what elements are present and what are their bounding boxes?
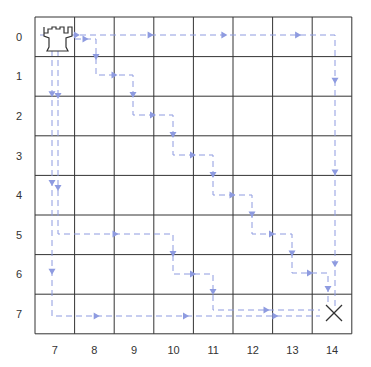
row-label: 7 bbox=[16, 308, 22, 320]
row-label: 4 bbox=[16, 189, 22, 201]
arrowhead-icon bbox=[289, 251, 296, 257]
arrowhead-icon bbox=[49, 180, 56, 186]
row-label: 1 bbox=[16, 70, 22, 82]
arrowhead-icon bbox=[55, 185, 62, 191]
column-label: 12 bbox=[247, 344, 259, 356]
column-label: 8 bbox=[91, 344, 97, 356]
arrowhead-icon bbox=[272, 313, 278, 320]
column-label: 14 bbox=[326, 344, 338, 356]
chess-board-diagram: 01234567 7891011121314 bbox=[0, 0, 371, 367]
column-label: 7 bbox=[52, 344, 58, 356]
arrowhead-icon bbox=[332, 170, 339, 176]
arrowhead-icon bbox=[332, 78, 339, 84]
arrowhead-icon bbox=[269, 231, 275, 238]
column-label: 9 bbox=[131, 344, 137, 356]
arrowhead-icon bbox=[150, 112, 156, 119]
arrowhead-icon bbox=[332, 261, 339, 267]
row-label: 0 bbox=[16, 31, 22, 43]
arrowhead-icon bbox=[264, 307, 270, 314]
arrowhead-icon bbox=[170, 132, 177, 138]
arrowhead-icon bbox=[183, 313, 189, 320]
board-grid bbox=[35, 17, 352, 334]
arrowhead-icon bbox=[170, 251, 177, 257]
arrowhead-icon bbox=[130, 92, 137, 98]
x-icon bbox=[326, 305, 342, 321]
arrowhead-icon bbox=[83, 36, 89, 43]
diagonal-staircase-path bbox=[75, 39, 328, 305]
column-label: 13 bbox=[286, 344, 298, 356]
arrowhead-icon bbox=[295, 32, 301, 39]
arrowhead-icon bbox=[94, 313, 100, 320]
column-label: 10 bbox=[167, 344, 179, 356]
row-label: 5 bbox=[16, 229, 22, 241]
arrowhead-icon bbox=[221, 32, 227, 39]
arrowhead-icon bbox=[325, 286, 332, 292]
arrowhead-icon bbox=[49, 269, 56, 275]
top-right-path bbox=[40, 35, 335, 310]
rook-icon bbox=[44, 27, 72, 51]
left-staircase-path bbox=[58, 50, 320, 310]
row-label: 2 bbox=[16, 110, 22, 122]
left-down-then-right-path bbox=[52, 50, 320, 316]
column-label: 11 bbox=[207, 344, 218, 356]
arrowhead-icon bbox=[74, 32, 80, 39]
row-labels: 01234567 bbox=[16, 31, 22, 320]
arrowhead-icon bbox=[113, 231, 119, 238]
column-labels: 7891011121314 bbox=[52, 344, 338, 356]
row-label: 6 bbox=[16, 268, 22, 280]
arrowhead-icon bbox=[148, 32, 154, 39]
row-label: 3 bbox=[16, 150, 22, 162]
